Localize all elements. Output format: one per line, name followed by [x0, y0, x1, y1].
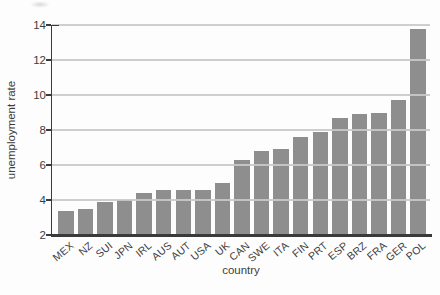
- y-tick-label-4: 4: [14, 194, 46, 207]
- x-tick-label-USA: USA: [188, 239, 213, 262]
- y-tick-label-14: 14: [14, 19, 46, 32]
- y-tick-10: [46, 94, 52, 95]
- y-tick-12: [46, 59, 52, 60]
- x-tick-label-FIN: FIN: [289, 239, 310, 259]
- x-axis-title-text: country: [222, 264, 260, 276]
- x-tick-label-JPN: JPN: [111, 239, 134, 261]
- y-tick-4: [46, 199, 52, 200]
- y-tick-label-2: 2: [14, 229, 46, 242]
- x-tick-label-SUI: SUI: [93, 239, 115, 260]
- x-tick-label-MEX: MEX: [50, 239, 76, 263]
- y-tick-label-8: 8: [14, 124, 46, 137]
- unemployment-rate-bar-chart: unemployment rate 2468101214 MEXNZSUIJPN…: [0, 0, 440, 295]
- x-tick-label-ITA: ITA: [271, 239, 291, 259]
- y-axis-top-cap: [52, 25, 59, 26]
- y-ticks-layer: [52, 25, 430, 235]
- y-tick-6: [46, 164, 52, 165]
- y-tick-label-12: 12: [14, 54, 46, 67]
- x-tick-label-NZ: NZ: [76, 239, 95, 257]
- y-tick-14: [46, 24, 52, 25]
- x-tick-label-SWE: SWE: [245, 239, 272, 264]
- plot-area: [52, 25, 430, 235]
- x-axis-line: [51, 234, 432, 236]
- y-tick-label-6: 6: [14, 159, 46, 172]
- y-tick-2: [46, 234, 52, 235]
- y-tick-8: [46, 129, 52, 130]
- x-tick-label-POL: POL: [404, 239, 428, 262]
- x-axis-title: country: [52, 264, 430, 276]
- y-tick-label-10: 10: [14, 89, 46, 102]
- scan-smudge-artifact: [30, 1, 50, 8]
